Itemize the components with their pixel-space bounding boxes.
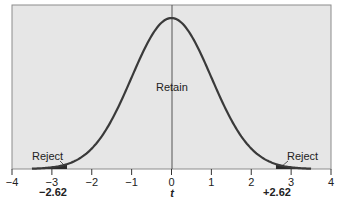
reject-left-label: Reject [32, 150, 63, 162]
x-tick-label: −1 [125, 176, 138, 188]
retain-label: Retain [156, 81, 188, 93]
x-tick-label: −2 [85, 176, 98, 188]
x-tick-label: 4 [328, 176, 334, 188]
x-tick-label: 2 [248, 176, 254, 188]
x-tick-label: 1 [208, 176, 214, 188]
x-axis-title: t [170, 187, 175, 199]
critical-value-left: −2.62 [39, 186, 67, 198]
critical-value-right: +2.62 [263, 186, 291, 198]
reject-right-label: Reject [287, 150, 318, 162]
t-distribution-chart: Reject Reject Retain −4−3−2−101234 −2.62… [0, 0, 340, 210]
x-tick-label: −4 [6, 176, 19, 188]
